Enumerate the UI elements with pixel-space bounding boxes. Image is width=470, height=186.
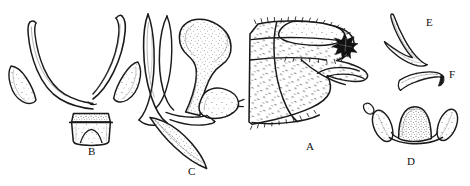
figure-label-e: E: [426, 17, 433, 28]
figure-b-central-plate: [70, 114, 112, 146]
figure-label-d: D: [407, 156, 415, 167]
plate-artwork: [0, 0, 470, 186]
figure-label-a: A: [306, 141, 314, 152]
figure-label-c: C: [188, 166, 195, 177]
illustration-plate: ▪ ▪▪ ▪▪▪ ▪▪▪▪ (▪▪▪▪▪▪)▪: [0, 0, 470, 186]
figure-label-b: B: [88, 146, 95, 157]
figure-label-f: F: [449, 69, 455, 80]
